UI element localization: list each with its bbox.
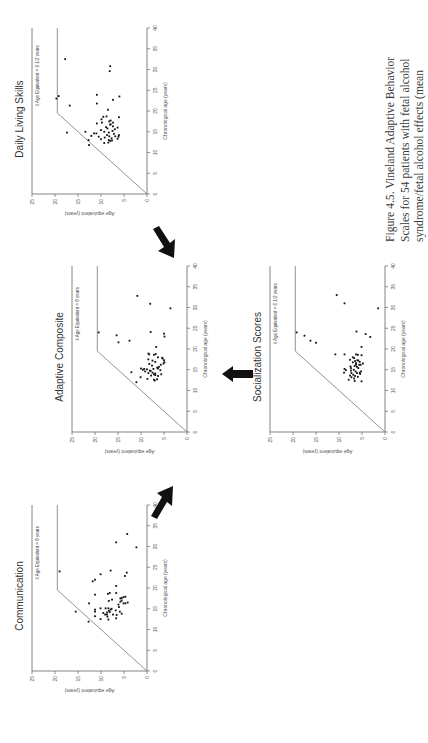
- svg-text:0: 0: [184, 437, 190, 440]
- arrow-left-icon: [222, 366, 254, 382]
- svg-text:20: 20: [152, 585, 158, 591]
- svg-text:0: 0: [152, 669, 158, 672]
- svg-text:10: 10: [152, 150, 158, 156]
- chart-adaptive-composite: Adaptive Composite0510152025303540051015…: [50, 266, 210, 466]
- svg-text:20: 20: [152, 108, 158, 114]
- svg-text:Chronological age (years): Chronological age (years): [162, 559, 168, 617]
- svg-text:20: 20: [390, 346, 396, 352]
- svg-text:20: 20: [92, 437, 98, 443]
- svg-text:25: 25: [152, 87, 158, 93]
- svg-text:Chronological age (years): Chronological age (years): [400, 320, 406, 378]
- svg-text:35: 35: [152, 46, 158, 52]
- svg-text:15: 15: [152, 129, 158, 135]
- svg-text:5: 5: [161, 437, 167, 440]
- svg-text:35: 35: [390, 284, 396, 290]
- svg-text:15: 15: [192, 367, 198, 373]
- svg-text:x̄ Age Equivalent = 9 1/2 year: x̄ Age Equivalent = 9 1/2 years: [35, 45, 40, 107]
- svg-text:15: 15: [115, 437, 121, 443]
- svg-text:20: 20: [52, 676, 58, 682]
- svg-text:Chronological age (years): Chronological age (years): [202, 320, 208, 378]
- svg-text:25: 25: [267, 437, 273, 443]
- chart-communication: Communication05101520253035400510152025C…: [10, 505, 170, 705]
- svg-text:20: 20: [290, 437, 296, 443]
- svg-text:15: 15: [75, 199, 81, 205]
- caption-line: Scales for 54 patients with fetal alcoho…: [399, 12, 414, 242]
- chart-title: Daily Living Skills: [14, 80, 25, 157]
- svg-text:30: 30: [192, 305, 198, 311]
- svg-text:15: 15: [75, 676, 81, 682]
- svg-text:25: 25: [29, 676, 35, 682]
- svg-text:10: 10: [98, 676, 104, 682]
- arrow-down-right-icon: [150, 226, 180, 260]
- svg-text:35: 35: [152, 523, 158, 529]
- svg-text:0: 0: [192, 430, 198, 433]
- svg-text:x̄ Age Equivalent = 6 1/2 year: x̄ Age Equivalent = 6 1/2 years: [273, 283, 278, 345]
- svg-text:5: 5: [121, 199, 127, 202]
- svg-text:5: 5: [192, 410, 198, 413]
- svg-text:10: 10: [192, 388, 198, 394]
- svg-text:5: 5: [390, 410, 396, 413]
- svg-text:5: 5: [121, 676, 127, 679]
- svg-text:10: 10: [138, 437, 144, 443]
- svg-text:0: 0: [144, 199, 150, 202]
- svg-text:25: 25: [152, 564, 158, 570]
- svg-text:x̄ Age Equivalent = 8 years: x̄ Age Equivalent = 8 years: [75, 286, 80, 340]
- svg-text:20: 20: [52, 199, 58, 205]
- svg-text:25: 25: [192, 325, 198, 331]
- svg-text:20: 20: [192, 346, 198, 352]
- svg-text:0: 0: [390, 430, 396, 433]
- svg-text:10: 10: [390, 388, 396, 394]
- figure-caption: Figure 4.5. Vineland Adaptive Behavior S…: [384, 12, 428, 242]
- svg-text:30: 30: [390, 305, 396, 311]
- svg-text:Age equivalent (years): Age equivalent (years): [64, 688, 114, 694]
- caption-line: Figure 4.5. Vineland Adaptive Behavior: [384, 12, 399, 242]
- chart-daily-living-skills: Daily Living Skills051015202530354005101…: [10, 28, 170, 228]
- svg-text:0: 0: [382, 437, 388, 440]
- caption-line: syndrome/fetal alcohol effects (mean: [413, 12, 428, 242]
- svg-text:Age equivalent (years): Age equivalent (years): [302, 449, 352, 455]
- svg-text:0: 0: [144, 676, 150, 679]
- svg-text:10: 10: [152, 627, 158, 633]
- svg-text:0: 0: [152, 192, 158, 195]
- svg-text:40: 40: [152, 25, 158, 31]
- svg-text:Age equivalent (years): Age equivalent (years): [104, 449, 154, 455]
- svg-text:5: 5: [152, 172, 158, 175]
- svg-text:40: 40: [192, 263, 198, 269]
- svg-text:30: 30: [152, 67, 158, 73]
- svg-text:10: 10: [98, 199, 104, 205]
- svg-text:15: 15: [390, 367, 396, 373]
- svg-text:15: 15: [152, 606, 158, 612]
- svg-text:15: 15: [313, 437, 319, 443]
- svg-text:Chronological age (years): Chronological age (years): [162, 82, 168, 140]
- svg-text:40: 40: [390, 263, 396, 269]
- svg-text:35: 35: [192, 284, 198, 290]
- svg-text:5: 5: [152, 649, 158, 652]
- arrow-up-right-icon: [148, 484, 178, 520]
- svg-text:25: 25: [390, 325, 396, 331]
- svg-text:10: 10: [336, 437, 342, 443]
- svg-text:25: 25: [69, 437, 75, 443]
- chart-title: Communication: [14, 561, 25, 630]
- svg-text:30: 30: [152, 544, 158, 550]
- svg-text:5: 5: [359, 437, 365, 440]
- svg-text:25: 25: [29, 199, 35, 205]
- svg-text:Age equivalent (years): Age equivalent (years): [64, 211, 114, 217]
- chart-title: Socialization Scores: [252, 312, 263, 402]
- chart-title: Adaptive Composite: [54, 312, 65, 402]
- chart-socialization-scores: Socialization Scores05101520253035400510…: [248, 266, 408, 466]
- svg-text:x̄ Age Equivalent = 8 years: x̄ Age Equivalent = 8 years: [35, 525, 40, 579]
